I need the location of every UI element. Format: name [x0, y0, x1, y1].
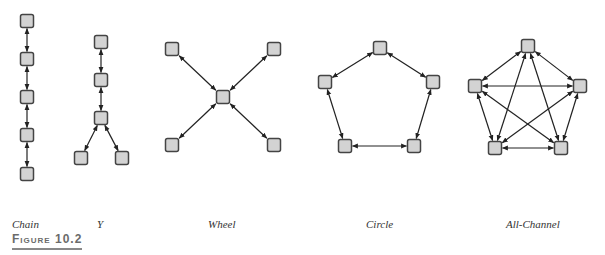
nodes [21, 15, 587, 181]
chain-node [21, 129, 34, 142]
y-node [95, 74, 108, 87]
y-node [95, 112, 108, 125]
figure-caption: Figure 10.2 [12, 232, 82, 250]
wheel-node [166, 43, 179, 56]
wheel-node [166, 139, 179, 152]
all-channel-node [469, 80, 482, 93]
all-channel-edge [535, 52, 572, 81]
circle-node [339, 140, 352, 153]
circle-label: Circle [366, 218, 393, 230]
wheel-edge [230, 56, 267, 90]
circle-node [427, 76, 440, 89]
chain-node [21, 15, 34, 28]
all-channel-node [522, 40, 535, 53]
circle-node [408, 140, 421, 153]
circle-node [319, 76, 332, 89]
wheel-edge [179, 104, 216, 138]
all-channel-node [574, 80, 587, 93]
circle-edge [416, 89, 431, 138]
all-channel-node [555, 142, 568, 155]
all-channel-label: All-Channel [506, 218, 560, 230]
chain-label: Chain [12, 218, 39, 230]
y-edge [105, 125, 118, 150]
wheel-label: Wheel [208, 218, 235, 230]
y-node [95, 36, 108, 49]
wheel-node [268, 139, 281, 152]
wheel-edge [230, 104, 267, 138]
chain-node [21, 91, 34, 104]
all-channel-edge [482, 52, 520, 81]
all-channel-edge [477, 93, 492, 140]
y-edge [85, 125, 98, 150]
all-channel-node [489, 142, 502, 155]
wheel-node [217, 91, 230, 104]
circle-edge [327, 89, 342, 138]
all-channel-edge [482, 91, 553, 142]
circle-edge [332, 53, 372, 78]
wheel-node [268, 43, 281, 56]
all-channel-edge [563, 93, 577, 140]
circle-node [374, 42, 387, 55]
chain-node [21, 168, 34, 181]
circle-edge [387, 53, 425, 78]
y-label: Y [97, 218, 103, 230]
wheel-edge [179, 56, 216, 90]
y-node [116, 152, 129, 165]
y-node [75, 152, 88, 165]
network-diagrams [0, 0, 605, 255]
all-channel-edge [502, 91, 572, 142]
chain-node [21, 53, 34, 66]
